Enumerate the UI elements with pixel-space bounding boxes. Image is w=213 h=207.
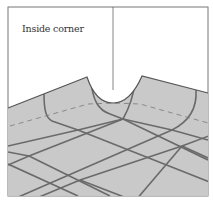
inside-corner-label: Inside corner xyxy=(22,23,84,34)
